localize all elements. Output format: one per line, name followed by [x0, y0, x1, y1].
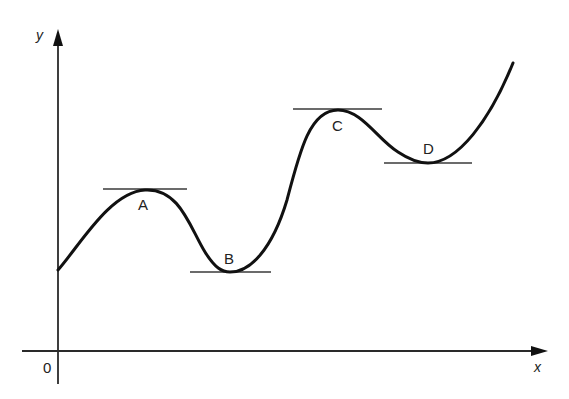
- point-label-d: D: [423, 140, 434, 157]
- function-curve: [58, 63, 513, 272]
- x-axis: [22, 346, 548, 356]
- x-axis-label: x: [533, 359, 542, 375]
- point-label-a: A: [138, 196, 148, 213]
- origin-label: 0: [43, 359, 51, 376]
- point-label-b: B: [224, 250, 234, 267]
- y-axis-label: y: [35, 27, 44, 43]
- point-label-c: C: [332, 117, 343, 134]
- y-axis: [53, 29, 63, 384]
- y-axis-arrowhead-icon: [53, 29, 63, 46]
- graph-canvas: y x 0 A B C D: [0, 0, 569, 399]
- x-axis-arrowhead-icon: [531, 346, 548, 356]
